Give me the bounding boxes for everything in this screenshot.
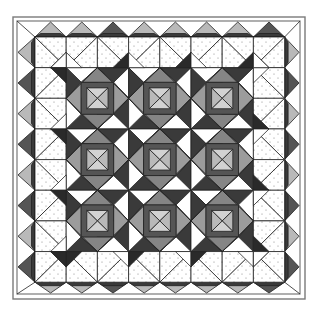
quilt-blocks [66,68,253,252]
quilt-svg [0,0,320,316]
quilt-figure [0,0,320,316]
